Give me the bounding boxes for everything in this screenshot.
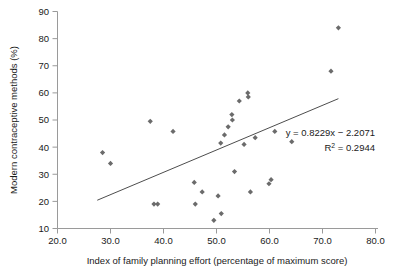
x-tick-label: 70.0: [313, 235, 332, 246]
y-tick-label: 70: [38, 60, 49, 71]
data-point: [170, 129, 175, 134]
data-point: [215, 193, 220, 198]
data-point: [232, 169, 237, 174]
data-point: [253, 135, 258, 140]
data-point: [148, 119, 153, 124]
y-axis-title: Modern contraceptive methods (%): [8, 46, 19, 194]
x-tick-label: 40.0: [154, 235, 173, 246]
data-point: [289, 139, 294, 144]
data-point: [222, 132, 227, 137]
data-points: [100, 25, 341, 223]
x-tick-group: [58, 229, 376, 234]
regression-annotation: y = 0.8229x − 2.2071 R2 = 0.2944: [286, 127, 375, 153]
y-tick-group: [53, 12, 58, 229]
y-tick-label: 90: [38, 6, 49, 17]
y-tick-label: 10: [38, 223, 49, 234]
x-tick-label: 30.0: [101, 235, 120, 246]
y-tick-label-group: 102030405060708090: [38, 6, 49, 234]
data-point: [193, 201, 198, 206]
data-point: [248, 189, 253, 194]
data-point: [100, 150, 105, 155]
data-point: [229, 112, 234, 117]
y-tick-label: 80: [38, 33, 49, 44]
data-point: [241, 142, 246, 147]
x-tick-label-group: 20.030.040.050.060.070.080.0: [48, 235, 385, 246]
x-axis-title: Index of family planning effort (percent…: [87, 255, 348, 266]
y-tick-label: 60: [38, 87, 49, 98]
r-squared-value: = 0.2944: [335, 142, 375, 153]
data-point: [336, 25, 341, 30]
chart-svg: 102030405060708090 Modern contraceptive …: [0, 0, 401, 273]
x-tick-label: 60.0: [260, 235, 279, 246]
r-squared-line: R2 = 0.2944: [324, 142, 375, 154]
data-point: [245, 90, 250, 95]
data-point: [219, 211, 224, 216]
x-tick-label: 50.0: [207, 235, 226, 246]
regression-equation: y = 0.8229x − 2.2071: [286, 127, 375, 138]
data-point: [108, 161, 113, 166]
data-point: [246, 94, 251, 99]
data-point: [218, 140, 223, 145]
trendline-segment: [97, 99, 338, 201]
data-point: [230, 117, 235, 122]
data-point: [200, 189, 205, 194]
data-point: [237, 98, 242, 103]
x-tick-label: 20.0: [48, 235, 67, 246]
y-tick-label: 50: [38, 114, 49, 125]
trendline: [97, 99, 338, 201]
y-axis: 102030405060708090 Modern contraceptive …: [8, 6, 58, 234]
y-tick-label: 40: [38, 142, 49, 153]
data-point: [328, 69, 333, 74]
data-point: [192, 180, 197, 185]
x-tick-label: 80.0: [366, 235, 385, 246]
data-point: [211, 218, 216, 223]
data-point: [272, 129, 277, 134]
y-tick-label: 30: [38, 169, 49, 180]
data-point: [226, 124, 231, 129]
y-tick-label: 20: [38, 196, 49, 207]
data-point: [155, 201, 160, 206]
x-axis: 20.030.040.050.060.070.080.0 Index of fa…: [48, 229, 385, 267]
scatter-chart: 102030405060708090 Modern contraceptive …: [0, 0, 401, 273]
